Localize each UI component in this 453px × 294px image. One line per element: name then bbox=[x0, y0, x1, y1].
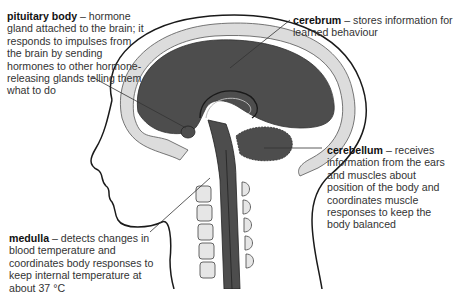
desc-pituitary: – hormone gland attached to the brain; i… bbox=[7, 10, 144, 96]
term-cerebellum: cerebellum bbox=[327, 144, 383, 156]
vertebrae-front bbox=[196, 186, 215, 278]
cerebellum bbox=[236, 127, 292, 161]
label-cerebellum: cerebellum – receives information from t… bbox=[327, 144, 452, 231]
term-medulla: medulla bbox=[9, 232, 49, 244]
desc-cerebellum: – receives information from the ears and… bbox=[327, 144, 445, 230]
label-medulla: medulla – detects changes in blood tempe… bbox=[9, 232, 159, 294]
cerebrum bbox=[137, 40, 334, 134]
label-cerebrum: cerebrum – stores information for learne… bbox=[293, 14, 453, 39]
label-pituitary-body: pituitary body – hormone gland attached … bbox=[7, 10, 147, 97]
term-cerebrum: cerebrum bbox=[293, 14, 341, 26]
vertebrae-back bbox=[242, 182, 254, 268]
term-pituitary: pituitary body bbox=[7, 10, 77, 22]
pituitary-body bbox=[181, 126, 195, 138]
